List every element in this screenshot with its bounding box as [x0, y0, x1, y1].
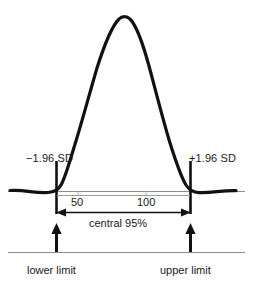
upper-limit-arrowhead	[185, 223, 195, 234]
lower-limit-label: lower limit	[27, 265, 76, 276]
lower-sd-label: −1.96 SD	[26, 153, 73, 164]
lower-limit-arrowhead	[51, 223, 61, 234]
axis-tick-label-100: 100	[137, 197, 155, 208]
central-interval-label: central 95%	[89, 218, 147, 229]
axis-tick-label-50: 50	[71, 197, 83, 208]
normal-distribution-figure: −1.96 SD +1.96 SD 50 100 central 95% low…	[0, 0, 253, 283]
figure-canvas	[0, 0, 253, 283]
upper-sd-label: +1.96 SD	[189, 153, 236, 164]
upper-limit-label: upper limit	[160, 265, 211, 276]
normal-curve	[10, 17, 236, 193]
